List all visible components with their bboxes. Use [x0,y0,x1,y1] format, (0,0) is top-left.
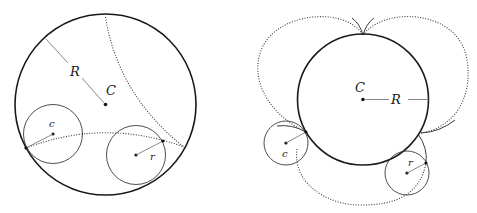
right-dotted-arc-upper-left [258,17,363,132]
left-panel: R C c r [15,14,196,195]
left-big-radius-line-upper [46,39,68,63]
right-dotted-arc-upper-right [363,17,468,133]
geometry-figure: R C c r C [0,0,477,213]
left-big-center-dot [104,103,108,107]
right-panel: C R c r [258,17,468,206]
left-dotted-arc-horizontal [26,133,184,148]
right-solid-arc-left-tangent [277,126,306,132]
right-small-radius-label: r [408,157,414,168]
right-small-center-label: c [282,148,288,159]
left-big-radius-label: R [69,64,80,79]
right-big-radius-label: R [390,92,401,107]
right-small-radius-line-c [286,132,306,143]
left-small-center-label: c [49,118,55,129]
left-big-center-label: C [106,83,116,98]
left-tangent-point-dot [24,146,27,149]
right-tangent-point-dot [304,130,307,133]
left-small-radius-label: r [150,151,156,162]
right-small-r-point-dot [424,161,427,164]
left-big-radius-line-lower [82,78,104,103]
right-solid-cusp-right [421,120,455,133]
right-solid-arc-right-tangent [418,134,426,163]
left-small-r-point-dot [161,139,164,142]
right-big-center-label: C [355,80,365,95]
left-dotted-arc-vertical [106,17,185,147]
right-dotted-arc-bottom [297,149,426,205]
right-solid-cusp-top-left [352,18,363,35]
